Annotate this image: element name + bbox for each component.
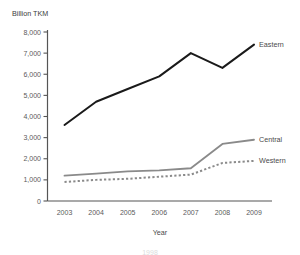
y-tick-label: 7,000 <box>23 50 41 57</box>
y-tick-label: 1,000 <box>23 176 41 183</box>
x-axis-ticks: 2003200420052006200720082009 <box>57 209 262 216</box>
x-tick-label: 2004 <box>88 209 104 216</box>
chart-page: Billion TKM 01,0002,0003,0004,0005,0006,… <box>0 0 300 255</box>
y-axis-title: Billion TKM <box>12 9 48 18</box>
series-group <box>65 45 255 182</box>
y-tick-label: 2,000 <box>23 155 41 162</box>
x-tick-label: 2007 <box>183 209 199 216</box>
y-tick-label: 0 <box>37 198 41 205</box>
y-axis-ticks: 01,0002,0003,0004,0005,0006,0007,0008,00… <box>23 29 47 205</box>
x-tick-label: 2003 <box>57 209 73 216</box>
y-tick-label: 8,000 <box>23 29 41 36</box>
x-axis-title: Year <box>153 228 168 237</box>
series-line-eastern <box>65 45 255 125</box>
series-label-western: Western <box>259 156 286 165</box>
y-tick-label: 3,000 <box>23 134 41 141</box>
x-tick-label: 2005 <box>120 209 136 216</box>
series-label-central: Central <box>259 135 283 144</box>
series-line-western <box>65 161 255 182</box>
x-tick-label: 2008 <box>215 209 231 216</box>
figure-caption: 1998 <box>0 248 300 255</box>
line-chart: Billion TKM 01,0002,0003,0004,0005,0006,… <box>0 0 300 255</box>
y-tick-label: 4,000 <box>23 113 41 120</box>
y-tick-label: 5,000 <box>23 92 41 99</box>
series-legend: EasternCentralWestern <box>259 40 286 165</box>
series-label-eastern: Eastern <box>259 40 284 49</box>
y-tick-label: 6,000 <box>23 71 41 78</box>
series-line-central <box>65 140 255 176</box>
x-tick-label: 2006 <box>151 209 167 216</box>
x-tick-label: 2009 <box>246 209 262 216</box>
